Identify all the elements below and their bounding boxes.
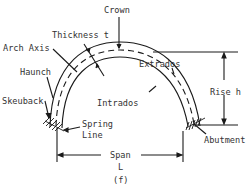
extrados-label: Extrados	[139, 59, 180, 69]
abutment-hatch	[186, 118, 205, 130]
rise-label: Rise h	[210, 87, 241, 97]
abutment-label: Abutment	[204, 135, 245, 145]
skewback-label: Skeuback	[2, 96, 44, 106]
crown-arrowhead	[117, 44, 121, 48]
span-arrow-right	[177, 153, 182, 157]
crown-label: Crown	[104, 5, 130, 15]
spring-line-arrowhead	[64, 128, 68, 132]
rise-arrow-down	[222, 119, 226, 124]
spring-line-label-1: Spring	[82, 119, 113, 129]
span-symbol-label: L	[118, 162, 123, 172]
haunch-label: Haunch	[20, 67, 51, 77]
arch-axis-label: Arch Axis	[3, 43, 50, 53]
arch-axis-leader	[53, 49, 77, 72]
figure-caption: (f)	[113, 175, 129, 185]
span-label: Span	[110, 150, 131, 160]
arch-diagram: Crown Thickness t Arch Axis Extrados Hau…	[0, 0, 248, 190]
intrados-label: Intrados	[97, 98, 138, 108]
skewback-hatch	[43, 116, 64, 131]
spring-line-label-2: Line	[82, 130, 103, 140]
rise-arrow-up	[222, 53, 226, 58]
haunch-leader	[47, 77, 53, 98]
thickness-label: Thickness t	[52, 30, 109, 40]
span-arrow-left	[58, 153, 63, 157]
intrados-leader	[149, 86, 156, 92]
